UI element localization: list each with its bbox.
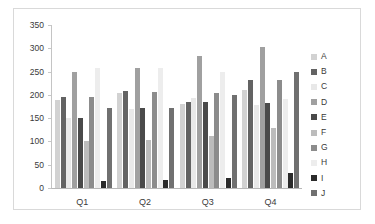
bar-j-q1[interactable] (107, 108, 112, 188)
x-axis-tick-label: Q3 (177, 190, 240, 208)
bar-h-q2[interactable] (158, 68, 163, 188)
bar-j-q3[interactable] (232, 95, 237, 188)
bar-h-q4[interactable] (283, 99, 288, 188)
legend-item-j[interactable]: J (311, 186, 355, 201)
bar-i-q1[interactable] (101, 181, 106, 188)
bar-c-q4[interactable] (254, 105, 259, 188)
legend-swatch-icon (311, 130, 317, 136)
x-axis-tick-label: Q1 (51, 190, 114, 208)
legend-swatch-icon (311, 160, 317, 166)
bar-g-q3[interactable] (214, 93, 219, 188)
legend-item-c[interactable]: C (311, 79, 355, 94)
bar-e-q4[interactable] (265, 103, 270, 188)
bar-f-q1[interactable] (84, 141, 89, 188)
y-axis: 050100150200250300350 (14, 9, 48, 211)
chart-legend: ABCDEFGHIJ (311, 49, 355, 201)
y-axis-tick-label: 100 (30, 137, 44, 145)
chart-container: 050100150200250300350 Q1Q2Q3Q4 ABCDEFGHI… (13, 8, 361, 210)
bar-b-q3[interactable] (186, 102, 191, 188)
bar-a-q4[interactable] (242, 90, 247, 188)
y-axis-tick-label: 50 (35, 161, 44, 169)
y-axis-tick-label: 150 (30, 114, 44, 122)
bar-j-q2[interactable] (169, 108, 174, 188)
bar-f-q3[interactable] (209, 136, 214, 188)
bar-c-q3[interactable] (191, 98, 196, 188)
legend-swatch-icon (311, 114, 317, 120)
y-axis-tick-label: 300 (30, 44, 44, 52)
x-axis: Q1Q2Q3Q4 (51, 190, 302, 208)
legend-item-label: E (321, 113, 327, 122)
legend-swatch-icon (311, 175, 317, 181)
bar-d-q4[interactable] (260, 47, 265, 188)
legend-item-f[interactable]: F (311, 125, 355, 140)
bar-b-q4[interactable] (248, 80, 253, 188)
bar-group-q2 (115, 25, 178, 188)
legend-item-label: I (321, 174, 323, 183)
legend-item-d[interactable]: D (311, 95, 355, 110)
bars-layer (52, 25, 302, 188)
bar-group-q3 (177, 25, 240, 188)
legend-item-i[interactable]: I (311, 171, 355, 186)
legend-item-b[interactable]: B (311, 64, 355, 79)
bar-a-q2[interactable] (117, 93, 122, 188)
bar-group-q4 (240, 25, 303, 188)
chart-plot-wrapper: 050100150200250300350 Q1Q2Q3Q4 ABCDEFGHI… (14, 9, 362, 211)
legend-item-label: H (321, 158, 327, 167)
legend-swatch-icon (311, 99, 317, 105)
bar-d-q3[interactable] (197, 56, 202, 188)
y-axis-tick-label: 200 (30, 91, 44, 99)
y-axis-tick-label: 0 (39, 184, 44, 192)
bar-b-q1[interactable] (61, 97, 66, 188)
legend-item-g[interactable]: G (311, 140, 355, 155)
bar-h-q3[interactable] (220, 72, 225, 188)
bar-i-q3[interactable] (226, 178, 231, 188)
legend-swatch-icon (311, 145, 317, 151)
bar-g-q2[interactable] (152, 92, 157, 188)
bar-e-q2[interactable] (140, 108, 145, 188)
legend-item-label: B (321, 67, 327, 76)
x-axis-tick-label: Q2 (114, 190, 177, 208)
legend-swatch-icon (311, 54, 317, 60)
plot-area (51, 25, 302, 189)
legend-item-label: G (321, 143, 328, 152)
legend-swatch-icon (311, 190, 317, 196)
bar-f-q2[interactable] (146, 140, 151, 188)
legend-swatch-icon (311, 69, 317, 75)
bar-b-q2[interactable] (123, 91, 128, 188)
bar-c-q2[interactable] (129, 109, 134, 188)
bar-e-q1[interactable] (78, 118, 83, 188)
bar-d-q1[interactable] (72, 72, 77, 188)
legend-item-a[interactable]: A (311, 49, 355, 64)
bar-h-q1[interactable] (95, 68, 100, 188)
bar-i-q2[interactable] (163, 180, 168, 188)
x-axis-tick-label: Q4 (239, 190, 302, 208)
y-axis-tick-label: 250 (30, 68, 44, 76)
bar-j-q4[interactable] (294, 72, 299, 188)
bar-d-q2[interactable] (135, 68, 140, 188)
bar-a-q3[interactable] (180, 104, 185, 188)
bar-i-q4[interactable] (288, 173, 293, 188)
legend-item-label: A (321, 52, 327, 61)
legend-item-label: C (321, 82, 327, 91)
y-axis-tick-label: 350 (30, 21, 44, 29)
bar-a-q1[interactable] (55, 100, 60, 188)
bar-e-q3[interactable] (203, 102, 208, 188)
legend-item-h[interactable]: H (311, 155, 355, 170)
bar-g-q4[interactable] (277, 80, 282, 188)
legend-item-label: D (321, 98, 327, 107)
bar-c-q1[interactable] (66, 118, 71, 188)
bar-group-q1 (52, 25, 115, 188)
legend-item-e[interactable]: E (311, 110, 355, 125)
bar-f-q4[interactable] (271, 128, 276, 188)
legend-item-label: J (321, 189, 325, 198)
legend-item-label: F (321, 128, 326, 137)
legend-swatch-icon (311, 84, 317, 90)
bar-g-q1[interactable] (89, 97, 94, 188)
